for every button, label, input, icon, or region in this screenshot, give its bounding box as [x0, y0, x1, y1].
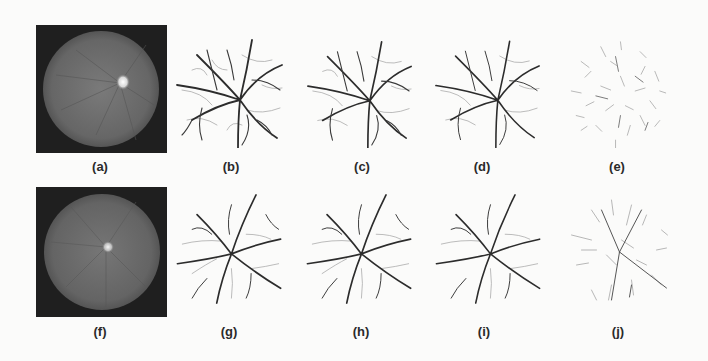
panel-c-segmentation	[303, 32, 416, 148]
vessel-tree-image	[172, 30, 287, 148]
vessel-fragments-image	[560, 190, 678, 308]
caption-j: (j)	[588, 324, 648, 340]
figure: (a) (b)	[0, 0, 708, 361]
panel-e-segmentation	[560, 32, 676, 148]
caption-i: (i)	[454, 324, 514, 340]
panel-f-fundus-image	[36, 187, 167, 317]
vessel-tree-image	[172, 190, 286, 306]
fundus-image	[36, 187, 167, 317]
panel-b-segmentation	[172, 30, 287, 148]
panel-d-segmentation	[431, 31, 544, 148]
panel-j-segmentation	[560, 190, 678, 308]
vessel-tree-image	[303, 32, 416, 148]
caption-d: (d)	[452, 159, 512, 175]
caption-a: (a)	[70, 159, 130, 175]
vessel-fragments-image	[560, 32, 676, 148]
panel-i-segmentation	[431, 190, 545, 306]
vessel-tree-image	[431, 31, 544, 148]
caption-e: (e)	[587, 159, 647, 175]
panel-a-fundus-image	[36, 25, 167, 153]
caption-c: (c)	[332, 159, 392, 175]
fundus-image	[36, 25, 167, 153]
panel-g-segmentation	[172, 190, 286, 306]
vessel-tree-image	[302, 190, 416, 306]
caption-h: (h)	[331, 324, 391, 340]
panel-h-segmentation	[302, 190, 416, 306]
caption-f: (f)	[70, 324, 130, 340]
caption-g: (g)	[199, 324, 259, 340]
caption-b: (b)	[201, 159, 261, 175]
vessel-tree-image	[431, 190, 545, 306]
